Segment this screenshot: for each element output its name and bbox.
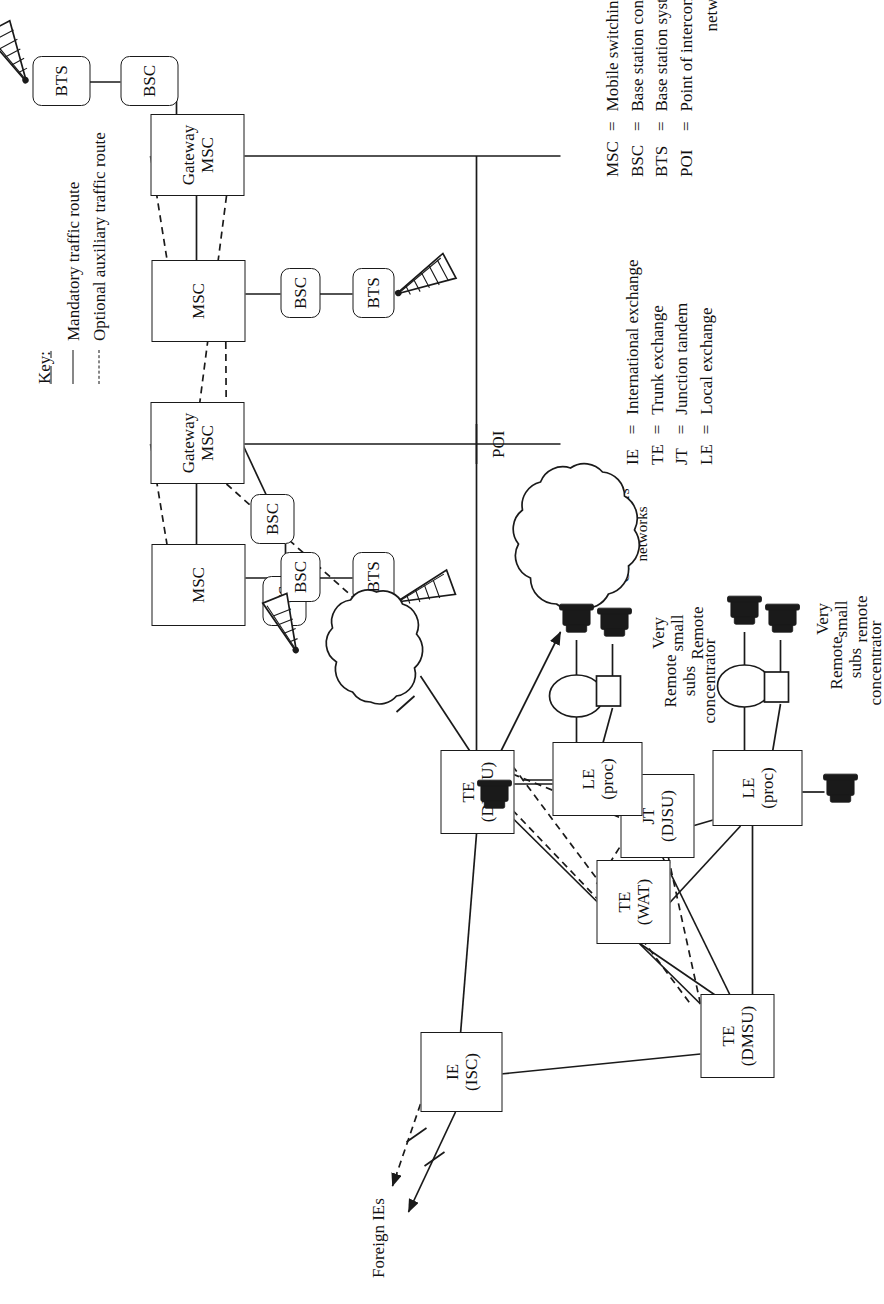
legend-row: BTS = Base station system [649,0,674,180]
annotation-line: small [831,574,850,664]
legend-def: Mobile switching system [600,0,625,114]
solid-line-swatch [72,350,73,384]
legend-eq: = [645,418,670,442]
legend-abbr: IE [620,441,645,468]
legend-def: Base station controller [625,0,650,114]
legend-abbr: JT [669,441,694,468]
legend-row: JT = Junction tandem [669,256,694,468]
very-small-remote-bottom [764,672,788,702]
antenna-icon-3 [389,253,455,306]
key-title: Key: [34,132,54,384]
key-block: Key: Mandatory traffic route Optional au… [34,132,111,384]
legend-row-continuation: networks [699,0,724,180]
legend-def: Base station system [649,0,674,114]
legend-def: Junction tandem [669,256,694,417]
antenna-icon-2 [262,593,308,657]
legend-abbr: POI [674,138,699,180]
legend-eq: = [600,114,625,138]
annotation-line: Very [812,574,831,664]
legend-mobile-network: MSC = Mobile switching system BSC = Base… [600,0,723,180]
dashed-line-swatch [98,350,99,384]
legend-eq: = [674,114,699,138]
legend-eq: = [669,418,694,442]
legend-def-continuation: networks [699,0,724,114]
legend-def: Local exchange [694,256,719,417]
legend-row: IE = International exchange [620,256,645,468]
telephone-icon-6 [765,604,799,632]
legend-abbr: LE [694,441,719,468]
telephone-icon-4 [823,774,857,802]
telephone-icon-1 [477,780,511,808]
telephone-icon-3 [597,608,631,636]
legend-def: International exchange [620,256,645,417]
very-small-remote-label-bottom: Very small remote [812,574,870,664]
legend-eq: = [694,418,719,442]
legend-row: MSC = Mobile switching system [600,0,625,180]
route-tick [424,1152,444,1166]
legend-abbr: BTS [649,138,674,180]
legend-row: BSC = Base station controller [625,0,650,180]
key-entry-label: Optional auxiliary traffic route [86,132,112,341]
legend-def: Point of interconnection between [674,0,699,114]
legend-def: Trunk exchange [645,256,670,417]
cloud-other-networks [513,464,639,610]
telephone-icon-5 [727,596,761,624]
key-entry-optional: Optional auxiliary traffic route [86,132,112,384]
remote-subs-concentrator-bottom [717,665,771,707]
route-tick [406,1128,426,1142]
legend-abbr: TE [645,441,670,468]
key-entry-mandatory: Mandatory traffic route [60,132,86,384]
legend-row: LE = Local exchange [694,256,719,468]
legend-eq: = [620,418,645,442]
very-small-remote-top [596,676,620,706]
legend-row: POI = Point of interconnection between [674,0,699,180]
legend-eq: = [649,114,674,138]
antenna-icon-1 [0,21,39,89]
legend-abbr: MSC [600,138,625,180]
legend-abbr: BSC [625,138,650,180]
annotation-line: remote [851,574,870,664]
legend-fixed-network: IE = International exchange TE = Trunk e… [620,256,719,468]
cloud-other-plmn [326,590,422,704]
remote-subs-concentrator-top [549,675,603,717]
telephone-icon-2 [559,604,593,632]
route-tick [396,696,414,712]
legend-row: TE = Trunk exchange [645,256,670,468]
legend-eq: = [625,114,650,138]
key-entry-label: Mandatory traffic route [60,182,86,341]
